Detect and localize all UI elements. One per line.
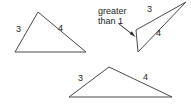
figure-canvas — [0, 0, 191, 105]
triangle-left-label-4: 4 — [58, 24, 63, 33]
triangle-bottom-outline — [69, 67, 172, 97]
triangles-figure: greater than 1 3 4 3 4 3 4 — [0, 0, 191, 105]
triangle-left-label-3: 3 — [16, 25, 21, 34]
triangle-bottom-label-4: 4 — [143, 73, 148, 82]
callout-line-1: greater — [98, 6, 127, 16]
callout-line-2: than 1 — [98, 16, 123, 26]
triangle-thin-label-3: 3 — [147, 5, 152, 14]
triangle-bottom-label-3: 3 — [78, 74, 83, 83]
triangle-thin-label-4: 4 — [156, 29, 161, 38]
triangle-thin-outline — [136, 2, 186, 52]
triangle-left-outline — [15, 12, 86, 52]
